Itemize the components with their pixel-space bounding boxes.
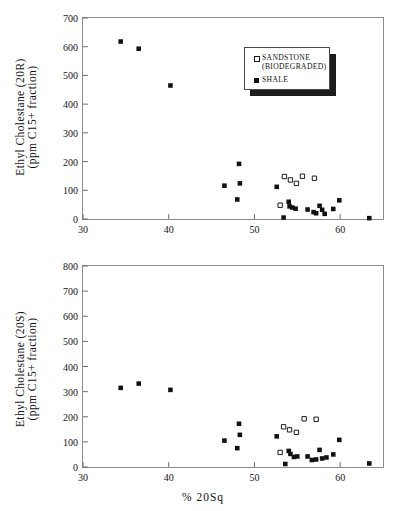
y-tick-label: 200 bbox=[63, 411, 78, 422]
legend-20r: SANDSTONE (BIODEGRADED) SHALE bbox=[244, 47, 330, 89]
y-tick-label: 0 bbox=[73, 214, 78, 225]
y-tick-label: 600 bbox=[63, 41, 78, 52]
data-point bbox=[337, 438, 342, 443]
open-square-icon bbox=[251, 53, 262, 62]
data-point bbox=[136, 381, 141, 386]
data-point bbox=[320, 208, 325, 213]
data-point bbox=[293, 206, 298, 211]
data-point bbox=[278, 203, 282, 207]
panel-20r: Ethyl Cholestane (20R) (ppm C15+ fractio… bbox=[0, 0, 406, 252]
data-point bbox=[136, 46, 141, 51]
data-point bbox=[281, 215, 286, 220]
series-shale bbox=[118, 381, 371, 466]
scatter-canvas-20s bbox=[83, 266, 383, 467]
y-axis-label-20r-line1: Ethyl Cholestane (20R) bbox=[14, 58, 26, 175]
data-point bbox=[278, 450, 282, 454]
data-point bbox=[288, 178, 292, 182]
x-tick-label: 40 bbox=[164, 224, 174, 235]
x-tick-label: 40 bbox=[164, 472, 174, 483]
y-axis-label-20s-line2: (ppm C15+ fraction) bbox=[26, 264, 38, 474]
y-tick-label: 300 bbox=[63, 127, 78, 138]
data-point bbox=[324, 455, 329, 460]
x-tick-label: 50 bbox=[249, 224, 259, 235]
x-tick-label: 60 bbox=[335, 224, 345, 235]
data-point bbox=[287, 428, 291, 432]
data-point bbox=[235, 446, 240, 451]
data-point bbox=[300, 174, 304, 178]
series-sandstone bbox=[278, 174, 317, 207]
data-point bbox=[322, 212, 327, 217]
data-point bbox=[317, 448, 322, 453]
legend-item-sandstone: SANDSTONE (BIODEGRADED) bbox=[251, 53, 321, 72]
data-point bbox=[294, 430, 298, 434]
legend-label-sandstone: SANDSTONE (BIODEGRADED) bbox=[262, 53, 326, 72]
y-tick-label: 500 bbox=[63, 336, 78, 347]
data-point bbox=[282, 174, 286, 178]
data-point bbox=[168, 388, 173, 393]
x-tick-label: 30 bbox=[78, 224, 88, 235]
data-point bbox=[305, 454, 310, 459]
data-point bbox=[235, 197, 240, 202]
y-tick-label: 400 bbox=[63, 361, 78, 372]
y-tick-label: 800 bbox=[63, 261, 78, 272]
data-point bbox=[168, 83, 173, 88]
plot-area-20s: 010020030040050060070080030405060 bbox=[82, 265, 384, 468]
x-tick-label: 50 bbox=[249, 472, 259, 483]
y-axis-label-20r: Ethyl Cholestane (20R) (ppm C15+ fractio… bbox=[14, 12, 38, 222]
legend-label-shale: SHALE bbox=[262, 75, 288, 84]
data-point bbox=[320, 456, 325, 461]
data-point bbox=[283, 462, 288, 467]
x-tick-label: 60 bbox=[335, 472, 345, 483]
data-point bbox=[237, 162, 242, 167]
data-point bbox=[274, 434, 279, 439]
data-point bbox=[312, 176, 316, 180]
data-point bbox=[238, 433, 243, 438]
y-tick-label: 0 bbox=[73, 462, 78, 473]
plot-area-20r: 010020030040050060070030405060 bbox=[82, 17, 384, 220]
data-point bbox=[317, 204, 322, 209]
y-tick-label: 200 bbox=[63, 156, 78, 167]
data-point bbox=[118, 386, 123, 391]
data-point bbox=[286, 199, 291, 204]
data-point bbox=[331, 452, 336, 457]
panel-20s: Ethyl Cholestane (20S) (ppm C15+ fractio… bbox=[0, 252, 406, 511]
y-tick-label: 600 bbox=[63, 311, 78, 322]
y-tick-label: 100 bbox=[63, 185, 78, 196]
filled-square-icon bbox=[251, 75, 262, 83]
x-axis-label: % 20Sq bbox=[0, 491, 406, 503]
data-point bbox=[281, 425, 285, 429]
y-tick-label: 100 bbox=[63, 436, 78, 447]
y-tick-label: 400 bbox=[63, 99, 78, 110]
legend-item-shale: SHALE bbox=[251, 75, 321, 84]
data-point bbox=[222, 438, 227, 443]
data-point bbox=[305, 207, 310, 212]
data-point bbox=[274, 185, 279, 190]
data-point bbox=[367, 461, 372, 466]
data-point bbox=[222, 183, 227, 188]
data-point bbox=[331, 207, 336, 212]
data-point bbox=[295, 454, 300, 459]
y-tick-label: 500 bbox=[63, 70, 78, 81]
series-sandstone bbox=[278, 417, 318, 455]
data-point bbox=[314, 417, 318, 421]
scatter-canvas-20r bbox=[83, 18, 383, 219]
data-point bbox=[294, 181, 298, 185]
data-point bbox=[337, 198, 342, 203]
data-point bbox=[238, 181, 243, 186]
y-tick-label: 700 bbox=[63, 286, 78, 297]
y-axis-label-20s-line1: Ethyl Cholestane (20S) bbox=[14, 311, 26, 427]
y-tick-label: 300 bbox=[63, 386, 78, 397]
legend-label-sandstone-line1: SANDSTONE bbox=[262, 53, 310, 62]
legend-label-sandstone-line2: (BIODEGRADED) bbox=[262, 62, 326, 71]
data-point bbox=[367, 216, 372, 221]
data-point bbox=[237, 422, 242, 427]
y-axis-label-20r-line2: (ppm C15+ fraction) bbox=[26, 12, 38, 222]
figure-root: Ethyl Cholestane (20R) (ppm C15+ fractio… bbox=[0, 0, 406, 511]
y-tick-label: 700 bbox=[63, 13, 78, 24]
y-axis-label-20s: Ethyl Cholestane (20S) (ppm C15+ fractio… bbox=[14, 264, 38, 474]
data-point bbox=[314, 211, 319, 216]
data-point bbox=[310, 458, 315, 463]
x-tick-label: 30 bbox=[78, 472, 88, 483]
data-point bbox=[302, 417, 306, 421]
legend-box: SANDSTONE (BIODEGRADED) SHALE bbox=[244, 47, 330, 90]
